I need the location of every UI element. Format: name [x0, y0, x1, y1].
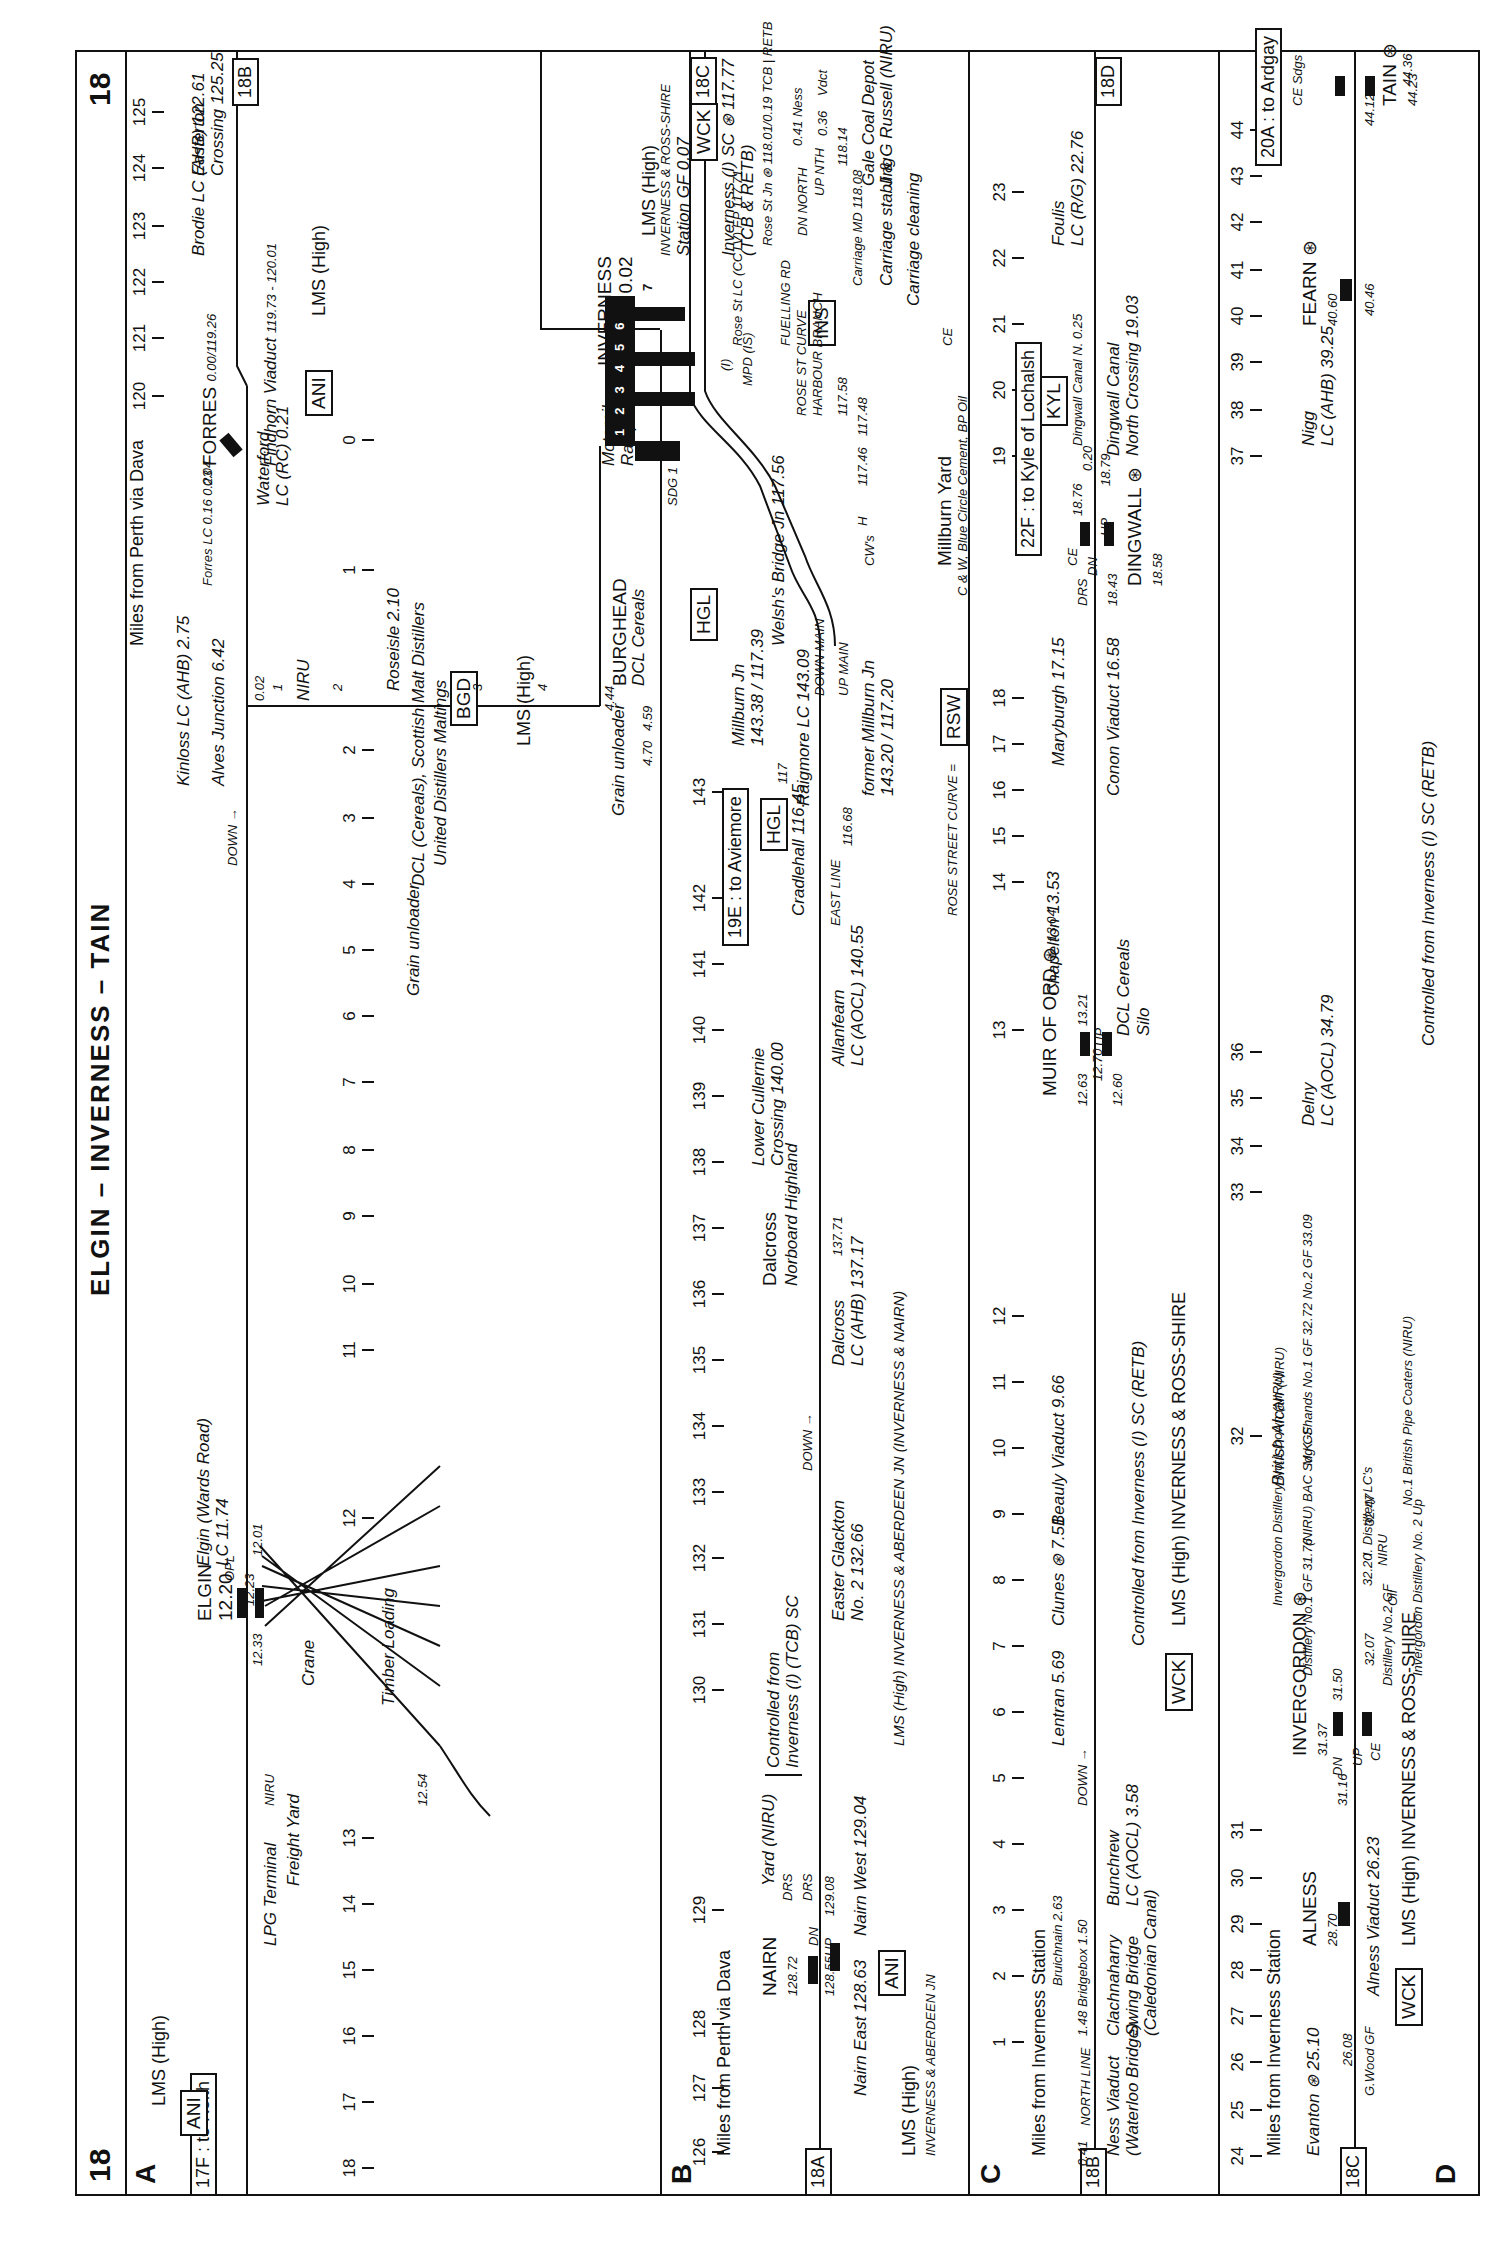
milepost: 13	[340, 1818, 374, 1858]
direction-down-c: DOWN →	[1075, 1748, 1090, 1806]
ref-box-to-kyle[interactable]: 22F : to Kyle of Lochalsh	[1015, 342, 1042, 556]
nairn-drs-2: DRS	[800, 1874, 815, 1901]
ref-box-to-ardgay[interactable]: 20A : to Ardgay	[1255, 28, 1282, 166]
station-burghead: BURGHEAD	[610, 578, 631, 686]
crane-label: Crane	[300, 1640, 319, 1686]
branch-milepost: 1	[270, 684, 285, 691]
milepost: 131	[690, 1604, 724, 1644]
cws: CW's	[862, 535, 877, 566]
up-nth: UP NTH	[812, 148, 827, 196]
invergordon-up: UP	[1350, 1748, 1365, 1766]
ref-box-18a[interactable]: 18A	[805, 2148, 832, 2196]
milepost: 10	[340, 1264, 374, 1304]
ref-box-18c[interactable]: 18C	[690, 57, 717, 106]
section-label-c: C	[975, 2164, 1007, 2184]
milepost: 12	[990, 1296, 1024, 1336]
ref-box-18c-d[interactable]: 18C	[1340, 2147, 1367, 2196]
nairn-dn: DN	[806, 1927, 821, 1946]
elgin-1201: 12.01	[250, 1523, 265, 1556]
company-niru: NIRU	[295, 659, 314, 701]
burghead-444: 4.44	[602, 686, 617, 711]
milepost: 132	[690, 1538, 724, 1578]
dingwall-1876: 18.76	[1070, 483, 1085, 516]
station-nairn: NAIRN128.72	[760, 1937, 802, 1996]
ref-box-to-aviemore[interactable]: 19E : to Aviemore	[722, 788, 749, 946]
n11814: 118.14	[835, 127, 850, 166]
platform-inverness-b	[635, 392, 695, 406]
milepost: 28	[1228, 1950, 1262, 1990]
muir-1263: 12.63	[1075, 1073, 1090, 1106]
rose-street-curve: ROSE STREET CURVE =	[945, 764, 960, 916]
mileage-note-a: Miles from Perth via Dava	[128, 440, 148, 646]
milepost: 125	[130, 92, 164, 132]
milepost: 15	[340, 1950, 374, 1990]
direction-down-a: DOWN →	[225, 808, 240, 866]
nigg-lc: NiggLC (AHB) 39.25	[1300, 326, 1337, 446]
n11668: 116.68	[840, 807, 855, 846]
company-a1: LMS (High)	[150, 2015, 170, 2106]
milepost: 139	[690, 1076, 724, 1116]
n036: 0.36	[815, 111, 830, 136]
oil-label: Oil	[1385, 1590, 1400, 1606]
code-rsw: RSW	[940, 688, 968, 746]
freight-yard: Freight Yard	[285, 1794, 304, 1886]
milepost: 35	[1228, 1078, 1262, 1118]
milepost: 142	[690, 878, 724, 918]
invergordon-ce: CE	[1368, 1743, 1383, 1761]
bridgebox: 1.48 Bridgebox 1.50	[1075, 1920, 1090, 2036]
lpg-terminal: LPG Terminal	[262, 1843, 281, 1946]
diagram-sheet: 18 ELGIN – INVERNESS – TAIN 18 A 17	[0, 0, 1506, 2246]
invergordon-dn: DN	[1330, 1757, 1345, 1776]
raigmore-lc: Raigmore LC 143.09	[795, 649, 814, 806]
rose-st-curve-track: ROSE ST CURVE	[794, 310, 809, 416]
milepost: 18	[340, 2148, 374, 2188]
conon-viaduct: Conon Viaduct 16.58	[1105, 638, 1124, 797]
milepost: 2	[990, 1956, 1024, 1996]
invergordon-distillery-up: Invergordon Distillery No. 2 Up	[1410, 1499, 1425, 1676]
alves-002: 0.02	[252, 676, 267, 701]
bunchrew-lc: BunchrewLC (AOCL) 3.58	[1105, 1784, 1142, 1906]
lentran: Lentran 5.69	[1050, 1651, 1069, 1747]
milepost: 133	[690, 1472, 724, 1512]
beauly-viaduct: Beauly Viaduct 9.66	[1050, 1375, 1069, 1526]
milepost: 3	[990, 1890, 1024, 1930]
milepost: 6	[990, 1692, 1024, 1732]
milepost: 11	[340, 1330, 374, 1370]
milepost: 26	[1228, 2042, 1262, 2082]
milepost: 7	[340, 1062, 374, 1102]
ref-box-18d[interactable]: 18D	[1095, 57, 1122, 106]
station-gf: Station GF 0.07	[675, 137, 694, 256]
milepost: 8	[990, 1560, 1024, 1600]
findhorn-viaduct: Findhorn Viaduct 119.73 - 120.01	[262, 243, 281, 466]
direction-down-b: DOWN →	[800, 1413, 815, 1471]
code-kyl: KYL	[1040, 376, 1068, 426]
milepost: 42	[1228, 202, 1262, 242]
british-alcan: British Alcan (NIRU)	[1270, 1347, 1289, 1486]
roseisle: Roseisle 2.10	[385, 588, 404, 691]
dn-north: DN NORTH	[795, 168, 810, 236]
kinloss-lc: Kinloss LC (AHB) 2.75	[175, 616, 194, 786]
milepost: 14	[990, 862, 1024, 902]
gale-coal-depot: Gale Coal Depot	[860, 60, 879, 186]
nairn-drs-1: DRS	[780, 1874, 795, 1901]
milepost: 22	[990, 238, 1024, 278]
ref-box-18b[interactable]: 18B	[232, 58, 259, 106]
foulis-lc: FoulisLC (R/G) 22.76	[1050, 131, 1087, 246]
branch-milepost: 4	[535, 684, 550, 691]
milepost: 17	[340, 2082, 374, 2122]
milepost: 0	[340, 420, 374, 460]
dingwall-020: 0.20	[1080, 446, 1095, 471]
dingwall-canal-north: Dingwall CanalNorth Crossing 19.03	[1105, 295, 1142, 456]
milepost: 23	[990, 172, 1024, 212]
dingwall-1843: 18.43	[1105, 573, 1120, 606]
d-3150: 31.50	[1330, 1668, 1345, 1701]
milepost: 123	[130, 206, 164, 246]
nairn-yard: Yard (NIRU)	[760, 1794, 779, 1886]
platform-dingwall-1	[1080, 522, 1090, 546]
mileage-note-d: Miles from Inverness Station	[1265, 1929, 1285, 2156]
g-wood-gf: G.Wood GF	[1362, 2027, 1377, 2096]
east-line: EAST LINE	[828, 860, 843, 926]
grain-unloader-burghead: Grain unloader	[610, 704, 629, 816]
milepost: 21	[990, 304, 1024, 344]
company-b-mid: LMS (High) INVERNESS & ABERDEEN JN (INVE…	[890, 1291, 907, 1746]
